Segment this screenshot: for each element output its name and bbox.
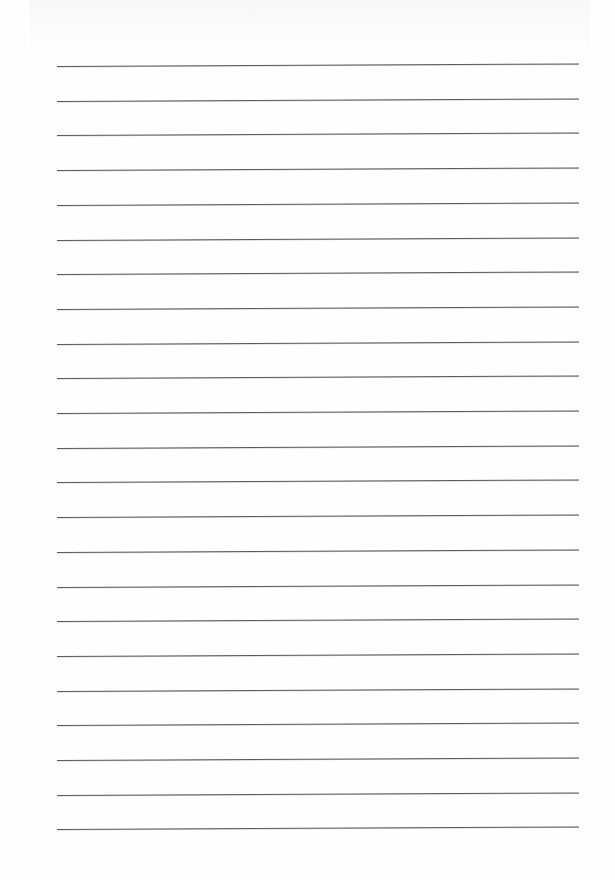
ruled-line [57,618,579,622]
ruled-line [57,98,579,102]
ruled-line [57,479,579,483]
ruled-line [57,306,579,310]
ruled-line [57,722,579,726]
scan-bleed-through [30,0,590,55]
ruled-line [57,514,579,518]
ruled-line [57,132,579,136]
ruled-line [57,410,579,414]
ruled-line [57,167,579,171]
ruled-line [57,202,579,206]
ruled-line [57,653,579,657]
ruled-line [57,584,579,588]
lined-paper-page [0,0,615,880]
ruled-line [57,445,579,449]
ruled-line [57,792,579,796]
ruled-line [57,237,579,241]
ruled-line [57,375,579,379]
ruled-line [57,757,579,761]
ruled-line [57,271,579,275]
ruled-line [57,688,579,692]
ruled-line [57,826,579,830]
ruled-line [57,341,579,345]
ruled-line [57,549,579,553]
ruled-line [57,63,579,67]
